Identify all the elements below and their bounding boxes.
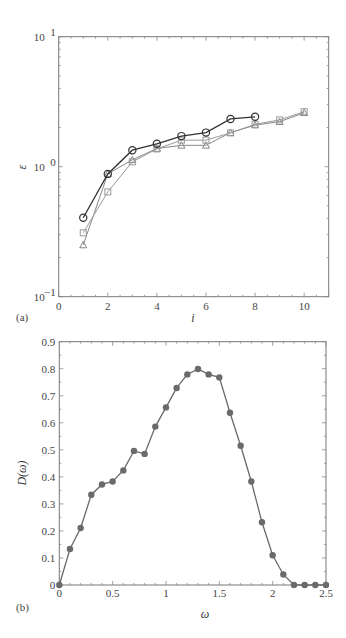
circle-marker xyxy=(104,170,111,177)
y-tick-labels-a: 10110010−1 xyxy=(34,26,57,303)
filled-circle-marker xyxy=(205,371,211,377)
filled-circle-marker xyxy=(237,443,243,449)
x-tick-label: 0 xyxy=(56,300,62,312)
filled-circle-marker xyxy=(88,492,94,498)
circle-marker xyxy=(227,115,234,122)
filled-circle-marker xyxy=(173,385,179,391)
figure: 0246810 10110010−1 i ε (a) 00.511.522.5 … xyxy=(0,0,346,638)
plot-frame-a xyxy=(59,37,329,297)
y-tick-labels-b: 00.10.20.30.40.50.60.70.80.9 xyxy=(42,336,56,591)
filled-circle-marker xyxy=(323,582,329,588)
chart-panel-a: 0246810 10110010−1 i ε (a) xyxy=(15,26,329,325)
filled-circle-marker xyxy=(259,519,265,525)
filled-circle-marker xyxy=(216,374,222,380)
x-tick-labels-a: 0246810 xyxy=(56,300,310,312)
filled-circle-marker xyxy=(280,571,286,577)
y-tick-label: 0 xyxy=(50,579,56,591)
panel-label-a: (a) xyxy=(16,311,29,324)
filled-circle-marker xyxy=(152,423,158,429)
x-tick-label: 1 xyxy=(163,587,169,599)
filled-circle-marker xyxy=(312,582,318,588)
axis-ticks-b xyxy=(59,342,326,585)
filled-circle-marker xyxy=(163,404,169,410)
filled-circle-marker xyxy=(99,481,105,487)
circle-marker xyxy=(251,113,258,120)
panel-label-b: (b) xyxy=(16,601,29,614)
filled-circle-marker xyxy=(301,582,307,588)
y-tick-label: 0.9 xyxy=(42,336,56,348)
y-tick-exponent: −1 xyxy=(44,286,56,298)
x-tick-label: 2.5 xyxy=(319,587,333,599)
filled-circle-marker xyxy=(56,582,62,588)
filled-circle-marker xyxy=(67,546,73,552)
x-tick-label: 2 xyxy=(270,587,276,599)
series-group-b xyxy=(56,366,329,588)
x-tick-label: 8 xyxy=(252,300,258,312)
series-line-d-omega xyxy=(59,369,326,585)
filled-circle-marker xyxy=(141,451,147,457)
y-tick-label: 0.3 xyxy=(42,498,56,510)
filled-circle-marker xyxy=(269,552,275,558)
circle-marker xyxy=(153,140,160,147)
y-tick-label: 10 xyxy=(34,31,46,43)
x-tick-label: 6 xyxy=(203,300,209,312)
series-group-a xyxy=(80,109,308,248)
filled-circle-marker xyxy=(248,478,254,484)
chart-panel-b: 00.511.522.5 00.10.20.30.40.50.60.70.80.… xyxy=(15,336,333,621)
circle-marker xyxy=(202,129,209,136)
circle-marker xyxy=(178,132,185,139)
plot-frame-b xyxy=(59,342,326,585)
series-line-squares xyxy=(83,112,304,233)
circle-marker xyxy=(129,147,136,154)
x-tick-label: 1.5 xyxy=(212,587,226,599)
filled-circle-marker xyxy=(109,478,115,484)
y-axis-label-a: ε xyxy=(15,164,29,169)
y-tick-label: 0.4 xyxy=(42,471,56,483)
y-tick-exponent: 0 xyxy=(50,156,56,168)
axis-ticks-a xyxy=(59,37,329,297)
y-tick-exponent: 1 xyxy=(50,26,56,38)
filled-circle-marker xyxy=(195,366,201,372)
x-axis-label-a: i xyxy=(191,311,194,325)
x-tick-label: 0.5 xyxy=(106,587,120,599)
y-tick-label: 0.7 xyxy=(42,390,56,402)
x-tick-label: 10 xyxy=(299,300,311,312)
filled-circle-marker xyxy=(291,582,297,588)
filled-circle-marker xyxy=(77,525,83,531)
y-tick-label: 0.6 xyxy=(42,417,56,429)
circle-marker xyxy=(80,214,87,221)
y-tick-label: 0.1 xyxy=(42,552,56,564)
filled-circle-marker xyxy=(184,371,190,377)
x-tick-labels-b: 00.511.522.5 xyxy=(57,587,334,599)
x-axis-label-b: ω xyxy=(201,607,209,621)
y-tick-label: 0.5 xyxy=(42,444,56,456)
y-tick-label: 0.2 xyxy=(42,525,56,537)
y-axis-label-b: D(ω) xyxy=(15,460,29,486)
series-line-triangles xyxy=(83,113,304,245)
x-tick-label: 0 xyxy=(57,587,63,599)
y-tick-label: 0.8 xyxy=(42,363,56,375)
filled-circle-marker xyxy=(131,448,137,454)
filled-circle-marker xyxy=(227,410,233,416)
x-tick-label: 4 xyxy=(154,300,160,312)
filled-circle-marker xyxy=(120,467,126,473)
x-tick-label: 2 xyxy=(105,300,111,312)
y-tick-label: 10 xyxy=(34,161,46,173)
